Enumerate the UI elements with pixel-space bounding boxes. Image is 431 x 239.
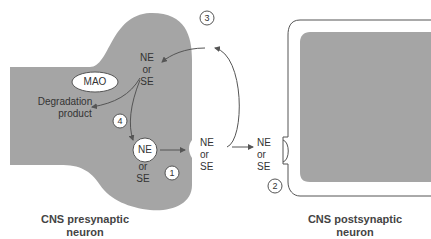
vesicle-ne-label: NE	[133, 144, 157, 156]
step-3-label: 3	[200, 12, 214, 24]
mao-label: MAO	[80, 76, 110, 88]
ne-se-label-top: NE or SE	[135, 52, 159, 88]
postsynaptic-neuron-body	[300, 32, 431, 182]
vesicle-or-label: or	[131, 161, 155, 173]
presynaptic-caption: CNS presynaptic neuron	[25, 213, 145, 239]
step-4-label: 4	[113, 115, 127, 127]
step-1-label: 1	[165, 167, 179, 179]
postsynaptic-caption: CNS postsynaptic neuron	[295, 213, 415, 239]
cleft-ne-se-label: NE or SE	[200, 137, 224, 173]
degradation-product-label: Degradation product	[25, 96, 105, 120]
vesicle-se-label: SE	[131, 173, 155, 185]
step-2-label: 2	[268, 180, 282, 192]
receptor	[283, 140, 288, 162]
receptor-ne-se-label: NE or SE	[257, 137, 281, 173]
